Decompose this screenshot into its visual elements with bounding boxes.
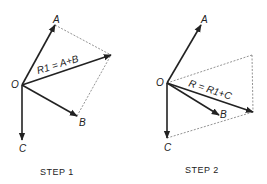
step2-vector-a <box>167 25 201 83</box>
step1-label-c: C <box>19 143 27 154</box>
step2-dashed-r1-r <box>252 55 253 112</box>
step2-label-b: B <box>220 109 227 120</box>
step2-label-origin: O <box>156 77 164 88</box>
step2-panel: O A B C R = R1+C STEP 2 <box>156 14 253 175</box>
step2-label-c: C <box>164 142 172 153</box>
vector-addition-diagram: O A B C R1 = A+B STEP 1 O A B C R = R1+C… <box>0 0 267 184</box>
step2-dashed-c-r <box>167 112 253 138</box>
step1-label-b: B <box>79 117 86 128</box>
step1-caption: STEP 1 <box>40 167 74 177</box>
step1-label-a: A <box>52 14 60 25</box>
step2-label-a: A <box>200 14 208 25</box>
step2-dashed-r1 <box>167 55 252 83</box>
step1-vector-b <box>22 85 77 116</box>
step1-panel: O A B C R1 = A+B STEP 1 <box>11 14 111 177</box>
step1-label-origin: O <box>11 79 19 90</box>
step2-caption: STEP 2 <box>185 165 219 175</box>
step1-dashed-a-r1 <box>55 25 111 55</box>
